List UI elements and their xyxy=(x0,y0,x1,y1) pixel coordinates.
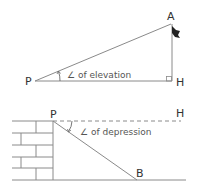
label-P: P xyxy=(25,75,32,88)
depression-angle-arc xyxy=(69,121,73,132)
label-B: B xyxy=(136,167,144,180)
angle-diagrams: A P H ∠ of elevation P H B ∠ of depressi… xyxy=(0,0,197,185)
label-P: P xyxy=(50,108,57,121)
depression-angle-label: ∠ of depression xyxy=(80,127,152,137)
brick-wall xyxy=(12,121,53,180)
depression-diagram: P H B ∠ of depression xyxy=(12,107,186,180)
flag-icon xyxy=(172,26,180,38)
label-H: H xyxy=(176,76,184,89)
label-A: A xyxy=(167,10,175,23)
elevation-diagram: A P H ∠ of elevation xyxy=(25,10,184,89)
label-H: H xyxy=(176,107,184,120)
right-angle-marker xyxy=(167,77,172,82)
elevation-angle-label: ∠ of elevation xyxy=(67,70,131,80)
